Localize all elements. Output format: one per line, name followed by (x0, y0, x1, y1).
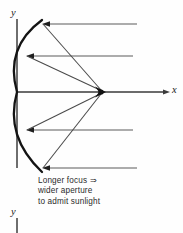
incoming-ray-group (26, 21, 137, 171)
x-axis-arrowhead-icon (163, 89, 170, 94)
parabolic-mirror-figure: y x y Longer focus ⇒ wider aperture to a… (0, 0, 183, 233)
caption-line-1: Longer focus ⇒ (38, 176, 148, 186)
x-axis-label-right: x (172, 84, 177, 95)
reflected-ray-bottom-outer (43, 94, 101, 168)
figure-caption: Longer focus ⇒ wider aperture to admit s… (38, 176, 148, 207)
y-axis-label-bottom: y (11, 206, 16, 217)
parabola-mirror-curve (14, 20, 42, 172)
reflected-ray-group (27, 24, 101, 168)
reflected-ray-top-outer (43, 24, 101, 90)
caption-line-2: wider aperture (38, 186, 148, 196)
reflected-ray-top-inner (27, 56, 101, 91)
reflected-ray-bottom-inner (27, 94, 101, 131)
focus-point-dot (98, 89, 103, 94)
y-axis-label-top: y (11, 7, 16, 18)
caption-line-3: to admit sunlight (38, 197, 148, 207)
